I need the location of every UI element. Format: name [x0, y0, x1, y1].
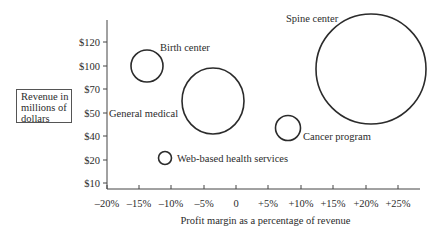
x-tick-label: 0 [233, 198, 238, 209]
bubble-spine-center [316, 14, 426, 124]
x-tick-labels: –20% –15% –10% –5% 0 +5% +10% +15% +20% … [94, 198, 411, 209]
bubble-general-medical [182, 68, 244, 134]
x-axis-label: Profit margin as a percentage of revenue [0, 215, 437, 226]
x-tick-label: –10% [158, 198, 184, 209]
y-tick-label: $10 [84, 178, 100, 189]
y-tick-label: $120 [79, 37, 100, 48]
y-tick-label: $100 [79, 61, 100, 72]
x-tick-label: –15% [126, 198, 152, 209]
x-ticks [107, 185, 398, 189]
x-tick-label: +5% [258, 198, 278, 209]
label-cancer-program: Cancer program [303, 131, 371, 142]
bubble-cancer-program [276, 116, 301, 141]
x-tick-label: –20% [94, 198, 120, 209]
x-tick-label: +10% [288, 198, 313, 209]
x-tick-label: +15% [320, 198, 345, 209]
x-tick-label: +25% [385, 198, 410, 209]
label-web-based: Web-based health services [177, 153, 288, 164]
y-tick-labels: $120 $100 $70 $50 $40 $20 $10 [79, 37, 100, 189]
label-general-medical: General medical [109, 108, 178, 119]
bubble-web-based [159, 152, 172, 165]
x-tick-label: +20% [353, 198, 378, 209]
y-ticks [103, 42, 107, 183]
label-birth-center: Birth center [160, 42, 210, 53]
x-tick-label: –5% [193, 198, 214, 209]
label-spine-center: Spine center [286, 13, 339, 24]
y-tick-label: $50 [84, 108, 100, 119]
y-tick-label: $20 [84, 155, 100, 166]
y-tick-label: $40 [84, 131, 100, 142]
bubble-birth-center [131, 50, 163, 82]
y-tick-label: $70 [84, 84, 100, 95]
y-axis-label: Revenue in millions of dollars [16, 89, 72, 123]
